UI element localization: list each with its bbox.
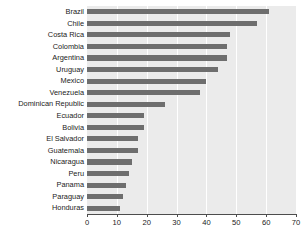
bar [87, 21, 257, 26]
bar [87, 90, 200, 95]
x-tick-label: 30 [166, 218, 188, 227]
bar-row [87, 75, 296, 87]
x-tick-40 [206, 214, 207, 217]
bar-row [87, 18, 296, 30]
bar [87, 102, 165, 107]
bar-row [87, 168, 296, 180]
category-label: Chile [0, 18, 84, 30]
bar [87, 125, 144, 130]
bar-row [87, 6, 296, 18]
bar [87, 9, 269, 14]
bar [87, 55, 227, 60]
category-label: Paraguay [0, 191, 84, 203]
bar-row [87, 202, 296, 214]
x-axis-line [87, 214, 296, 215]
category-label: Brazil [0, 6, 84, 18]
bar [87, 32, 230, 37]
x-tick-50 [236, 214, 237, 217]
bar-chart: BrazilChileCosta RicaColombiaArgentinaUr… [0, 0, 308, 247]
plot-panel [87, 6, 296, 214]
bar-row [87, 145, 296, 157]
bar-row [87, 110, 296, 122]
category-label: Uruguay [0, 64, 84, 76]
category-label: Panama [0, 179, 84, 191]
bar-row [87, 191, 296, 203]
x-tick-label: 40 [195, 218, 217, 227]
category-label: Guatemala [0, 145, 84, 157]
x-tick-0 [87, 214, 88, 217]
x-tick-30 [177, 214, 178, 217]
bar-row [87, 29, 296, 41]
x-tick-label: 50 [225, 218, 247, 227]
category-label: Mexico [0, 75, 84, 87]
bar [87, 113, 144, 118]
bar-row [87, 179, 296, 191]
x-tick-label: 70 [285, 218, 307, 227]
category-label: Nicaragua [0, 156, 84, 168]
x-tick-70 [296, 214, 297, 217]
x-tick-60 [266, 214, 267, 217]
bar [87, 206, 120, 211]
bar-row [87, 87, 296, 99]
bar [87, 171, 129, 176]
category-label: Peru [0, 168, 84, 180]
bar [87, 44, 227, 49]
bar-row [87, 98, 296, 110]
x-tick-20 [147, 214, 148, 217]
bar-row [87, 52, 296, 64]
x-tick-label: 0 [76, 218, 98, 227]
bar [87, 79, 206, 84]
x-tick-label: 60 [255, 218, 277, 227]
category-label: Costa Rica [0, 29, 84, 41]
x-tick-label: 10 [106, 218, 128, 227]
category-label: Bolivia [0, 122, 84, 134]
bar-row [87, 122, 296, 134]
category-label: Colombia [0, 41, 84, 53]
bar [87, 136, 138, 141]
bar-row [87, 156, 296, 168]
category-axis-labels: BrazilChileCosta RicaColombiaArgentinaUr… [0, 6, 84, 214]
bar-row [87, 41, 296, 53]
bar-row [87, 64, 296, 76]
bar-row [87, 133, 296, 145]
bar [87, 183, 126, 188]
bar [87, 67, 218, 72]
category-label: Ecuador [0, 110, 84, 122]
category-label: Argentina [0, 52, 84, 64]
bar-rows [87, 6, 296, 214]
bar [87, 148, 138, 153]
x-tick-10 [117, 214, 118, 217]
category-label: Dominican Republic [0, 98, 84, 110]
category-label: Venezuela [0, 87, 84, 99]
x-tick-label: 20 [136, 218, 158, 227]
bar [87, 159, 132, 164]
bar [87, 194, 123, 199]
category-label: Honduras [0, 202, 84, 214]
category-label: El Salvador [0, 133, 84, 145]
